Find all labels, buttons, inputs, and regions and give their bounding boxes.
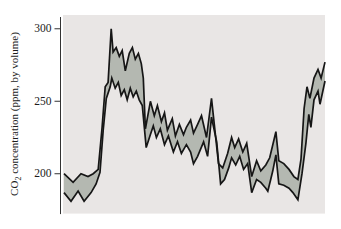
co2-chart-figure: 300250200CO2 concentration (ppm, by volu… bbox=[0, 0, 341, 229]
chart-svg: 300250200CO2 concentration (ppm, by volu… bbox=[0, 0, 341, 229]
y-tick-label: 200 bbox=[34, 167, 52, 179]
co2-band-chart: 300250200CO2 concentration (ppm, by volu… bbox=[0, 0, 341, 229]
y-tick-label: 250 bbox=[34, 95, 52, 107]
y-tick-label: 300 bbox=[34, 22, 52, 34]
